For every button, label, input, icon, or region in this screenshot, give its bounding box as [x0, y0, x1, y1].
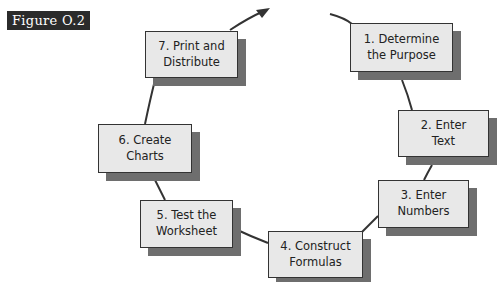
- step-7-box: 7. Print andDistribute: [145, 31, 238, 78]
- step-5-box: 5. Test theWorksheet: [140, 200, 233, 248]
- step-2-box: 2. EnterText: [398, 110, 489, 157]
- step-6-box: 6. CreateCharts: [98, 124, 192, 173]
- step-4-box: 4. ConstructFormulas: [268, 231, 363, 278]
- step-1-box: 1. Determinethe Purpose: [350, 23, 453, 72]
- step-3-box: 3. EnterNumbers: [378, 180, 469, 228]
